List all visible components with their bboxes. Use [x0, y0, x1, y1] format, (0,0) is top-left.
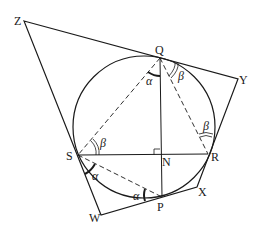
segment-QR [160, 58, 208, 154]
label-S: S [66, 149, 73, 163]
angle-label-beta-S: β [99, 136, 106, 150]
segment-QP [160, 58, 162, 197]
angle-label-beta-Q: β [177, 69, 184, 83]
segment-SR [78, 154, 208, 155]
label-P: P [157, 200, 164, 214]
label-Z: Z [14, 14, 21, 28]
angle-label-alpha-Q: α [146, 74, 153, 88]
geometry-diagram: Z Q Y S N R W P X α β β β α α [0, 0, 258, 236]
segment-SP [78, 155, 162, 197]
angle-label-alpha-S: α [92, 169, 99, 183]
angle-label-alpha-P: α [133, 189, 140, 203]
label-Y: Y [239, 73, 248, 87]
angle-arc-beta-S [91, 141, 96, 155]
label-N: N [162, 155, 171, 169]
angle-arc-alpha-P [144, 189, 145, 201]
label-W: W [89, 211, 101, 225]
angle-arc-beta-R [200, 136, 212, 138]
label-R: R [211, 150, 219, 164]
angle-label-beta-R: β [202, 119, 209, 133]
label-Q: Q [155, 43, 164, 57]
label-X: X [198, 185, 207, 199]
